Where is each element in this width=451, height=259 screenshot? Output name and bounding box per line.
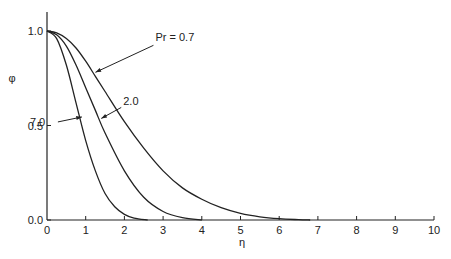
annotations: Pr = 0.72.07.0 [30,31,194,128]
x-tick-label: 4 [199,224,205,236]
x-tick-label: 3 [160,224,166,236]
y-tick-label: 1.0 [28,25,43,37]
series-annotation: Pr = 0.7 [155,31,194,43]
x-tick-label: 1 [83,224,89,236]
x-tick-label: 9 [392,224,398,236]
series-line [47,31,310,220]
y-axis-label: φ [8,72,15,84]
chart: 0123456789100.00.51.0 Pr = 0.72.07.0 η φ [0,0,451,259]
y-tick-label: 0.0 [28,214,43,226]
series-annotation: 7.0 [30,116,45,128]
x-tick-label: 6 [276,224,282,236]
series-line [47,31,148,220]
x-tick-label: 5 [237,224,243,236]
curves [47,31,310,220]
x-axis-label: η [239,236,245,248]
x-tick-label: 8 [354,224,360,236]
x-tick-label: 2 [121,224,127,236]
x-tick-label: 0 [44,224,50,236]
axes: 0123456789100.00.51.0 [28,12,440,236]
x-tick-label: 7 [315,224,321,236]
series-annotation: 2.0 [123,95,138,107]
x-tick-label: 10 [428,224,440,236]
